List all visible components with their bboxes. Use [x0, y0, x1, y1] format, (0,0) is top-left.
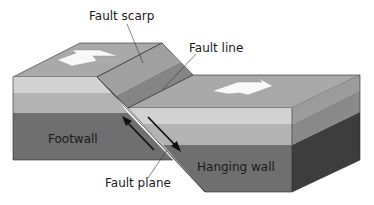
fault-diagram: Fault scarp Fault line Footwall Hanging …	[0, 0, 374, 205]
hanging-wall-label: Hanging wall	[197, 160, 275, 174]
footwall-layer-light	[13, 77, 113, 93]
fault-scarp-label: Fault scarp	[89, 9, 154, 23]
fault-plane-label: Fault plane	[105, 176, 171, 190]
fault-line-label: Fault line	[189, 41, 243, 55]
footwall-label: Footwall	[48, 132, 98, 146]
footwall-layer-mid	[13, 93, 128, 113]
